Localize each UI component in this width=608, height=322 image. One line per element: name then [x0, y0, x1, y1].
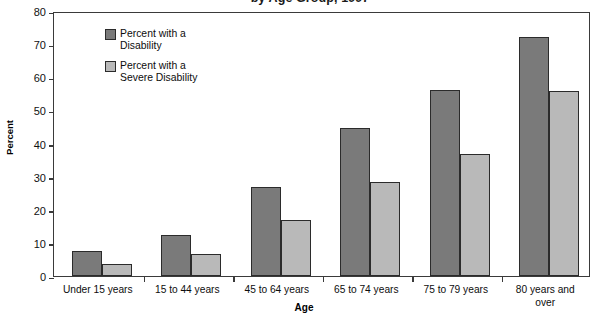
y-axis-label: Percent — [4, 108, 15, 168]
x-category-label: 45 to 64 years — [232, 284, 322, 297]
y-tick-mark — [49, 13, 54, 15]
bar-severe-disability — [102, 264, 132, 276]
x-tick-mark — [412, 276, 414, 282]
bar-disability — [161, 235, 191, 276]
x-tick-mark — [233, 276, 235, 282]
chart-legend: Percent with a DisabilityPercent with a … — [105, 28, 197, 92]
bar-disability — [430, 90, 460, 276]
bar-group — [251, 13, 311, 276]
x-category-label: 65 to 74 years — [322, 284, 412, 297]
y-tick-label: 30 — [34, 172, 46, 185]
x-category-label: Under 15 years — [53, 284, 143, 297]
y-tick-label: 50 — [34, 105, 46, 118]
y-tick-mark — [49, 145, 54, 147]
y-tick-mark — [49, 278, 54, 280]
x-category-label: 15 to 44 years — [143, 284, 233, 297]
bar-disability — [519, 37, 549, 276]
bar-disability — [251, 187, 281, 276]
bar-severe-disability — [370, 182, 400, 276]
bar-chart: by Age Group, 1997 Percent 8070605040302… — [0, 0, 608, 322]
chart-title: by Age Group, 1997 — [150, 0, 470, 5]
y-tick-label: 80 — [34, 6, 46, 19]
bar-group — [519, 13, 579, 276]
legend-swatch-severe-disability — [105, 61, 116, 72]
x-category-label: 75 to 79 years — [411, 284, 501, 297]
y-tick-mark — [49, 46, 54, 48]
y-tick-mark — [49, 211, 54, 213]
y-tick-label: 0 — [40, 271, 46, 284]
legend-label: Percent with a Disability — [120, 28, 186, 51]
bar-severe-disability — [281, 220, 311, 276]
y-tick-label: 70 — [34, 39, 46, 52]
legend-label: Percent with a Severe Disability — [120, 60, 197, 83]
legend-item: Percent with a Severe Disability — [105, 60, 197, 83]
bar-severe-disability — [191, 254, 221, 276]
y-tick-label: 40 — [34, 139, 46, 152]
x-tick-mark — [144, 276, 146, 282]
legend-swatch-disability — [105, 29, 116, 40]
y-tick-label: 60 — [34, 72, 46, 85]
y-tick-mark — [49, 112, 54, 114]
bar-severe-disability — [460, 154, 490, 276]
bar-disability — [72, 251, 102, 276]
bar-group — [430, 13, 490, 276]
bar-disability — [340, 128, 370, 276]
y-tick-label: 20 — [34, 205, 46, 218]
y-tick-mark — [49, 178, 54, 180]
bar-group — [340, 13, 400, 276]
legend-item: Percent with a Disability — [105, 28, 197, 51]
bar-severe-disability — [549, 91, 579, 277]
x-axis-label: Age — [0, 302, 608, 313]
x-tick-mark — [502, 276, 504, 282]
y-tick-label: 10 — [34, 238, 46, 251]
y-tick-mark — [49, 79, 54, 81]
y-tick-mark — [49, 244, 54, 246]
x-tick-mark — [323, 276, 325, 282]
